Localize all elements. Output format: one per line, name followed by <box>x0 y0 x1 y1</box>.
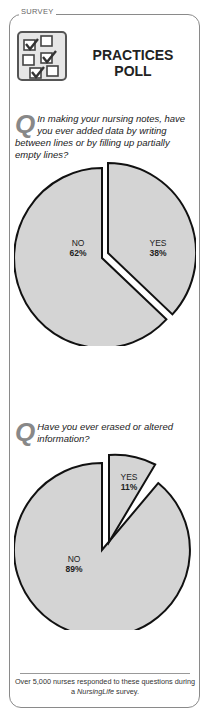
section-tag: SURVEY <box>19 7 56 16</box>
answer-label: NO <box>58 238 98 248</box>
answer-pct: 11% <box>114 482 144 492</box>
question-2-text: Have you ever erased or altered informat… <box>37 421 173 444</box>
answer-pct: 38% <box>138 248 178 258</box>
footer-text-end: survey. <box>114 687 139 696</box>
checkbox-grid-icon <box>17 31 67 81</box>
title-line-1: PRACTICES <box>78 47 188 63</box>
question-2: Q Have you ever erased or altered inform… <box>15 421 195 445</box>
answer-pct: 89% <box>54 564 94 574</box>
question-1: Q In making your nursing notes, have you… <box>15 113 195 161</box>
page-title: PRACTICES POLL <box>78 47 188 79</box>
pie2-label-no: NO 89% <box>54 554 94 574</box>
pie-chart-2: YES 11% NO 89% <box>14 450 196 630</box>
q-letter-icon: Q <box>15 113 35 135</box>
publication-name: NursingLife <box>77 687 114 696</box>
footer-note: Over 5,000 nurses responded to these que… <box>14 677 196 697</box>
answer-label: YES <box>114 472 144 482</box>
footer-divider <box>20 673 190 674</box>
pie-chart-1: NO 62% YES 38% <box>14 160 196 346</box>
q-letter-icon: Q <box>15 421 35 443</box>
question-1-text: In making your nursing notes, have you e… <box>15 113 185 160</box>
title-line-2: POLL <box>78 63 188 79</box>
pie1-label-no: NO 62% <box>58 238 98 258</box>
answer-label: YES <box>138 238 178 248</box>
answer-pct: 62% <box>58 248 98 258</box>
answer-label: NO <box>54 554 94 564</box>
pie2-label-yes: YES 11% <box>114 472 144 492</box>
pie1-label-yes: YES 38% <box>138 238 178 258</box>
